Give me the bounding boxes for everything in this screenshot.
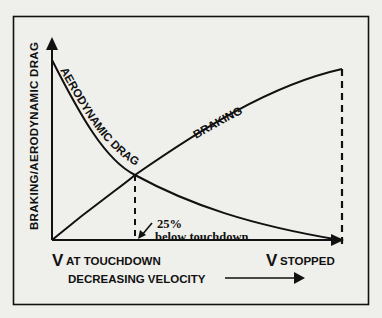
annotation-text: below touchdown — [155, 230, 248, 244]
touchdown-label: AT TOUCHDOWN — [66, 255, 161, 267]
y-axis-arrow-icon — [46, 37, 58, 50]
aerodynamic-drag-curve — [52, 60, 340, 240]
braking-curve — [52, 69, 342, 240]
annotation-percent: 25% — [157, 217, 182, 231]
braking-label: BRAKING — [191, 104, 244, 141]
x-axis-label: DECREASING VELOCITY — [68, 273, 206, 285]
braking-drag-diagram: AERODYNAMIC DRAG BRAKING BRAKING/AERODYN… — [0, 0, 382, 318]
stopped-label: STOPPED — [280, 255, 335, 267]
velocity-arrow-icon — [294, 272, 305, 284]
y-axis-label: BRAKING/AERODYNAMIC DRAG — [28, 42, 40, 230]
aerodynamic-drag-label: AERODYNAMIC DRAG — [58, 65, 141, 167]
v-touchdown-symbol: V — [52, 251, 64, 270]
v-stopped-symbol: V — [266, 251, 278, 270]
diagram-container: AERODYNAMIC DRAG BRAKING BRAKING/AERODYN… — [0, 0, 382, 318]
